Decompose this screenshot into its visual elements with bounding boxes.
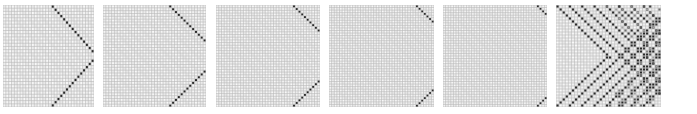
panel-6: [556, 5, 661, 107]
panel-3: [216, 5, 320, 107]
panel-1: [3, 5, 94, 107]
panel-5: [443, 5, 547, 107]
panel-2: [103, 5, 206, 107]
grid-matrix: [329, 5, 434, 107]
panel-4: [329, 5, 434, 107]
grid-matrix: [3, 5, 94, 107]
grid-matrix: [443, 5, 547, 107]
grid-matrix: [556, 5, 661, 107]
grid-matrix: [103, 5, 206, 107]
matrix-pattern-figure: [0, 0, 697, 114]
grid-matrix: [216, 5, 320, 107]
